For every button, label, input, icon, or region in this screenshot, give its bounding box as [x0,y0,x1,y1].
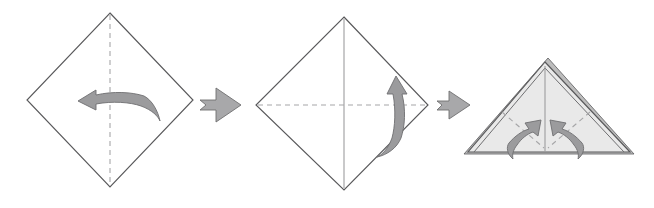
step-connector-2-to-3 [437,91,470,119]
step-2-group[interactable] [256,17,428,190]
step-3-paper-face [468,62,630,152]
origami-instruction-diagram: Origami folding instruction sequence Thr… [0,0,654,208]
step-3-group[interactable] [464,58,634,159]
diagram-canvas [0,0,654,208]
step-connector-1-to-2 [200,88,241,122]
step-1-group[interactable] [27,13,193,187]
